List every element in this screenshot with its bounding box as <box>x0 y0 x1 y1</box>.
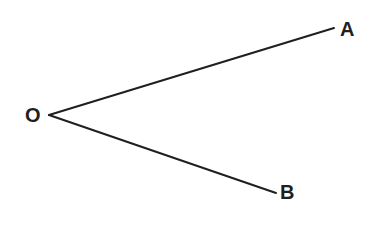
vertex-label-B: B <box>280 182 295 202</box>
geometry-figure: O A B <box>0 0 376 226</box>
vertex-label-A: A <box>340 19 355 39</box>
vertex-label-O: O <box>25 105 41 125</box>
figure-svg <box>0 0 376 226</box>
segment-OA <box>49 28 334 115</box>
segment-OB <box>49 115 276 193</box>
